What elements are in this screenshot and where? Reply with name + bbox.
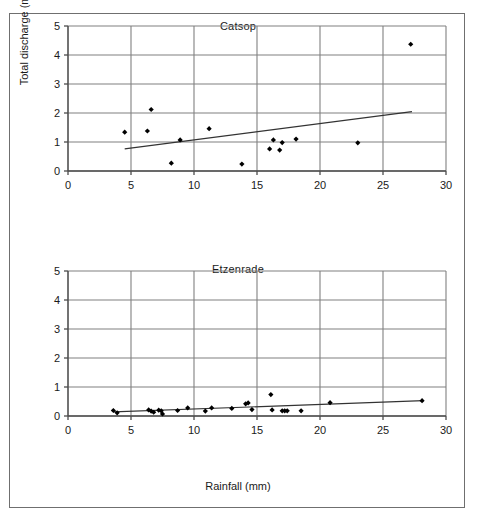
- data-point-marker: [268, 392, 273, 397]
- x-tick-label: 5: [128, 424, 134, 436]
- x-tick-label: 30: [440, 424, 452, 436]
- data-point-marker: [267, 146, 272, 151]
- data-point-marker: [229, 406, 234, 411]
- x-tick-label: 10: [188, 424, 200, 436]
- data-point-marker: [293, 137, 298, 142]
- x-tick-label: 15: [251, 179, 263, 191]
- y-tick-label: 1: [54, 381, 60, 393]
- scatter-plot-catsop: 012345051015202530: [10, 14, 466, 261]
- data-point-marker: [169, 161, 174, 166]
- y-tick-label: 4: [54, 294, 60, 306]
- y-tick-label: 3: [54, 323, 60, 335]
- x-tick-label: 0: [65, 179, 71, 191]
- x-tick-label: 5: [128, 179, 134, 191]
- scatter-plot-etzenrade: 012345051015202530: [10, 259, 466, 506]
- data-point-marker: [270, 407, 275, 412]
- figure-frame: Total discharge (mm) Catsop 012345051015…: [9, 13, 465, 508]
- x-tick-label: 20: [314, 424, 326, 436]
- data-point-marker: [239, 161, 244, 166]
- x-tick-label: 30: [440, 179, 452, 191]
- data-point-marker: [175, 408, 180, 413]
- y-tick-label: 4: [54, 49, 60, 61]
- trendline: [125, 112, 412, 149]
- y-tick-label: 3: [54, 78, 60, 90]
- y-tick-label: 0: [54, 165, 60, 177]
- data-point-marker: [299, 408, 304, 413]
- x-tick-label: 10: [188, 179, 200, 191]
- x-tick-label: 25: [377, 424, 389, 436]
- y-tick-label: 5: [54, 265, 60, 277]
- y-tick-label: 2: [54, 107, 60, 119]
- x-axis-label: Rainfall (mm): [10, 480, 466, 492]
- chart-panel-catsop: Catsop 012345051015202530: [10, 14, 466, 261]
- data-point-marker: [249, 407, 254, 412]
- chart-panel-etzenrade: Etzenrade 012345051015202530: [10, 259, 466, 506]
- data-point-marker: [419, 398, 424, 403]
- data-point-marker: [209, 405, 214, 410]
- y-tick-label: 2: [54, 352, 60, 364]
- data-point-marker: [122, 130, 127, 135]
- data-point-marker: [207, 126, 212, 131]
- data-point-marker: [145, 128, 150, 133]
- x-tick-label: 20: [314, 179, 326, 191]
- x-tick-label: 0: [65, 424, 71, 436]
- data-point-marker: [280, 140, 285, 145]
- data-point-marker: [355, 140, 360, 145]
- x-tick-label: 25: [377, 179, 389, 191]
- data-point-marker: [277, 148, 282, 153]
- data-point-marker: [408, 42, 413, 47]
- y-tick-label: 0: [54, 410, 60, 422]
- x-tick-label: 15: [251, 424, 263, 436]
- data-point-marker: [149, 107, 154, 112]
- y-tick-label: 1: [54, 136, 60, 148]
- y-tick-label: 5: [54, 20, 60, 32]
